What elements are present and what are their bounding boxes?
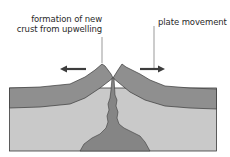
upwelling-label-line-2: crust from upwelling bbox=[17, 24, 102, 34]
plate-movement-label: plate movement bbox=[158, 17, 227, 27]
right-plate-movement-arrow bbox=[140, 66, 165, 73]
upwelling-label: formation of new crust from upwelling bbox=[17, 14, 102, 34]
left-plate-movement-arrow bbox=[60, 66, 86, 73]
upwelling-label-line-1: formation of new bbox=[17, 14, 102, 24]
